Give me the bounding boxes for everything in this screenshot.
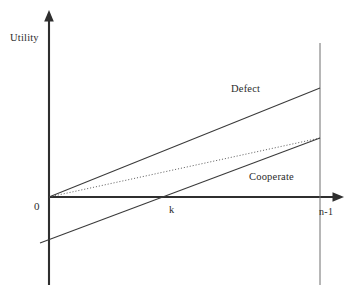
y-axis-label: Utility [10, 33, 39, 44]
diagram-canvas [0, 0, 363, 296]
reference-dotted-line [49, 138, 320, 197]
cooperate-line [40, 138, 320, 243]
cooperate-series-label: Cooperate [249, 172, 294, 183]
origin-label: 0 [34, 201, 40, 212]
y-axis-arrowhead [44, 10, 54, 22]
defect-series-label: Defect [231, 84, 260, 95]
utility-diagram: Utility 0 k n-1 Defect Cooperate [0, 0, 363, 296]
x-axis-arrowhead [333, 192, 345, 202]
x-tick-label-k: k [169, 205, 174, 216]
x-tick-label-n-minus-1: n-1 [319, 207, 333, 217]
